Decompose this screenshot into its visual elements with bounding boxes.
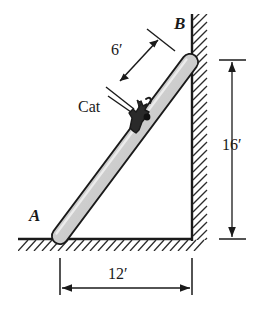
dim6-arrowhead-upper <box>149 40 158 48</box>
dim16-arrowhead-top <box>228 62 236 72</box>
label-dimension-16ft: 16′ <box>222 137 242 153</box>
cat-tail-icon <box>146 98 151 103</box>
ladder-figure: A B Cat 6′ 16′ 12′ <box>0 0 267 315</box>
cat-position-dot <box>144 114 151 121</box>
dim6-arrow-line <box>120 40 158 81</box>
dim6-arrowhead-lower <box>120 74 129 82</box>
figure-canvas <box>0 0 267 315</box>
wall-hatching <box>193 6 207 252</box>
wall-group <box>192 6 207 252</box>
label-point-b: B <box>174 15 185 32</box>
dim12-arrowhead-left <box>62 284 72 292</box>
dim16-arrowhead-bottom <box>228 227 236 237</box>
label-point-a: A <box>29 207 40 224</box>
label-cat: Cat <box>78 99 100 115</box>
ladder-highlight <box>57 60 187 234</box>
label-dimension-6ft: 6′ <box>111 42 123 58</box>
ground-hatching <box>18 240 204 251</box>
ladder-body <box>60 62 190 236</box>
label-dimension-12ft: 12′ <box>108 266 128 282</box>
ground-group <box>18 239 204 251</box>
ladder <box>57 60 191 237</box>
dim12-arrowhead-right <box>180 284 190 292</box>
